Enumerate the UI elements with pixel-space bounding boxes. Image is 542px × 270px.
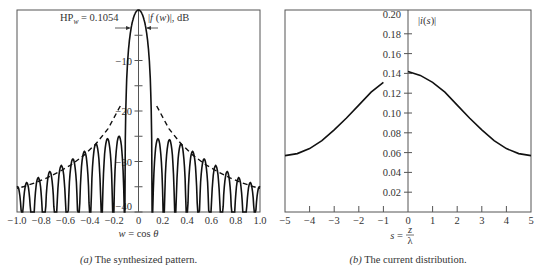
x-tick-label: 0.6 — [205, 215, 218, 226]
x-tick-label: −5 — [279, 215, 290, 226]
x-tick-label: 4 — [504, 215, 510, 226]
x-ticks-b: −5−4−3−2−1012345 — [279, 206, 533, 226]
y-tick-label: 0.06 — [383, 148, 401, 159]
figure: −10−20−30−40 −1.0−0.8−0.6−0.4−0.200.20.4… — [0, 0, 542, 270]
x-tick-label: −1 — [378, 215, 389, 226]
x-axis-label-b: s = z λ — [390, 224, 414, 246]
hp-annotation: HPw = 0.1054 — [60, 12, 119, 26]
y-tick-label: 0.16 — [383, 49, 401, 60]
y-tick-label: −20 — [116, 106, 132, 117]
x-tick-label: 0 — [136, 215, 141, 226]
current-curve-left — [285, 82, 383, 155]
y-tick-label: 0.20 — [383, 9, 401, 20]
caption-a: (a) The synthesized pattern. — [80, 254, 197, 266]
svg-text:s =: s = — [390, 230, 403, 241]
caption-b: (b) The current distribution. — [349, 254, 466, 266]
panel-b-current-distribution: 0.020.040.060.080.100.120.140.160.180.20… — [279, 9, 533, 266]
y-tick-label: 0.14 — [383, 68, 402, 79]
x-tick-label: 0.2 — [156, 215, 169, 226]
x-tick-label: 1.0 — [253, 215, 266, 226]
x-axis-label-a: w = cos θ — [119, 228, 159, 239]
x-tick-label: −3 — [329, 215, 340, 226]
x-tick-label: 0.8 — [229, 215, 242, 226]
x-tick-label: 0.4 — [181, 215, 195, 226]
y-tick-label: 0.04 — [383, 167, 402, 178]
y-axis-label-a: |f (w)|, dB — [148, 12, 189, 24]
svg-text:z: z — [407, 224, 412, 235]
y-tick-label: −10 — [116, 56, 132, 67]
y-tick-label: 0.02 — [383, 187, 401, 198]
x-tick-labels-a: −1.0−0.8−0.6−0.4−0.200.20.40.60.81.0 — [7, 215, 266, 226]
y-tick-label: 0.10 — [383, 108, 401, 119]
x-tick-label: −2 — [353, 215, 364, 226]
x-tick-label: −0.4 — [80, 215, 100, 226]
x-tick-label: 5 — [528, 215, 533, 226]
y-tick-label: 0.18 — [383, 29, 401, 40]
x-tick-label: −0.6 — [56, 215, 75, 226]
x-tick-label: −1.0 — [7, 215, 26, 226]
svg-text:λ: λ — [407, 235, 413, 246]
x-tick-label: −0.8 — [32, 215, 51, 226]
x-tick-label: −4 — [304, 215, 316, 226]
x-tick-label: 2 — [455, 215, 460, 226]
current-curve-right — [408, 71, 531, 155]
y-tick-label: 0.08 — [383, 128, 401, 139]
y-tick-label: 0.12 — [383, 88, 401, 99]
y-tick-label: −30 — [116, 157, 132, 168]
x-tick-label: 1 — [430, 215, 435, 226]
x-tick-label: −0.2 — [105, 215, 124, 226]
panel-a-synthesized-pattern: −10−20−30−40 −1.0−0.8−0.6−0.4−0.200.20.4… — [7, 10, 266, 266]
x-tick-label: 3 — [479, 215, 484, 226]
y-axis-label-b: |i(s)| — [418, 15, 436, 27]
